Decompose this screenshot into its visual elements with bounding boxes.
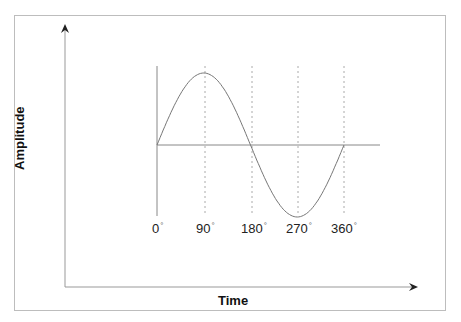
tick-label: 360° xyxy=(331,221,357,236)
tick-label: 90° xyxy=(196,221,215,236)
tick-label: 270° xyxy=(286,221,312,236)
tick-label: 0° xyxy=(152,221,163,236)
grid-lines xyxy=(205,66,344,216)
tick-label: 180° xyxy=(241,221,267,236)
sine-diagram xyxy=(0,0,461,322)
y-axis-label: Amplitude xyxy=(12,106,27,170)
x-axis-label: Time xyxy=(218,293,248,308)
